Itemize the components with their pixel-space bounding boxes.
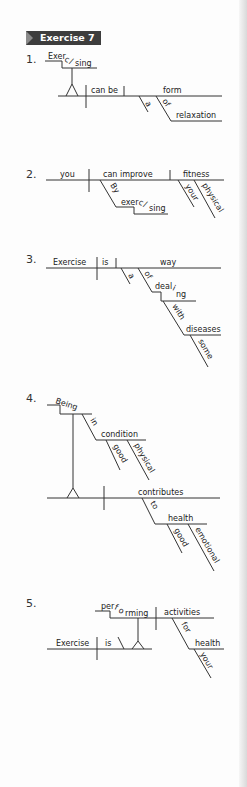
word-object: health xyxy=(168,514,193,523)
word-object: health xyxy=(195,639,220,648)
word-verb: contributes xyxy=(138,488,183,497)
exercise-number: 2. xyxy=(26,168,37,181)
diagram-3: 3. Exercise is way a of deal i ng with d… xyxy=(26,253,221,367)
word-subject: Exercise xyxy=(56,639,89,648)
word-modifier: physical xyxy=(132,442,156,475)
word-gerund: deal xyxy=(155,282,172,291)
word-verb: can be xyxy=(91,86,118,95)
word-complement: form xyxy=(163,86,182,95)
sentence-diagrams: 1. Exer c / sing can be form a of relaxa… xyxy=(0,0,247,787)
word-preposition: in xyxy=(88,416,99,427)
word-object: activities xyxy=(164,608,200,617)
svg-text:rming: rming xyxy=(125,609,148,618)
word-verb: can improve xyxy=(103,170,153,179)
diagram-4: 4. Being in condition good physical cont… xyxy=(26,392,221,571)
diagram-5: 5. per f o rming activities for health y… xyxy=(26,597,224,678)
exercise-number: 1. xyxy=(26,53,37,66)
diagram-2: 2. you can improve fitness By exer c / s… xyxy=(26,168,225,218)
svg-text:sing: sing xyxy=(149,204,166,213)
word-object: diseases xyxy=(186,325,221,334)
word-gerund: Being xyxy=(54,396,78,412)
word-verb: is xyxy=(105,639,111,648)
word-modifier: some xyxy=(196,338,215,361)
word-gerund: exer xyxy=(121,198,139,207)
svg-text:sing: sing xyxy=(75,59,92,68)
word-object: fitness xyxy=(183,170,210,179)
word-verb: is xyxy=(102,258,108,267)
word-modifier: good xyxy=(172,527,190,549)
word-preposition: for xyxy=(179,620,193,635)
word-preposition: By xyxy=(108,181,121,195)
diagram-1: 1. Exer c / sing can be form a of relaxa… xyxy=(26,52,222,121)
word-preposition: with xyxy=(170,302,187,321)
word-complement: way xyxy=(160,258,176,267)
exercise-number: 4. xyxy=(26,392,37,405)
word-object: relaxation xyxy=(176,111,216,120)
word-object: condition xyxy=(101,430,138,439)
word-subject: you xyxy=(60,170,75,179)
word-preposition: to xyxy=(148,499,160,511)
word-modifier: good xyxy=(111,443,129,465)
exercise-number: 5. xyxy=(26,597,37,610)
svg-text:ng: ng xyxy=(176,290,186,299)
exercise-number: 3. xyxy=(26,253,37,266)
word-subject: Exercise xyxy=(53,258,86,267)
